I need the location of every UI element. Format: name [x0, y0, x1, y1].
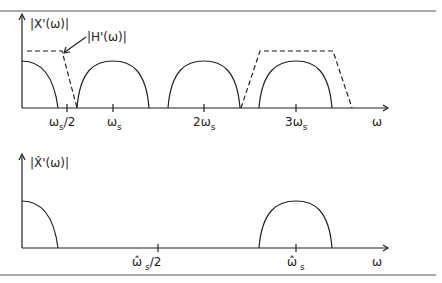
- reconstructed-lobe-1: [259, 201, 332, 248]
- top-tick-labels: ωs/2 ωs 2ωs 3ωs: [49, 115, 308, 132]
- top-x-label: ω: [372, 115, 382, 129]
- bottom-y-label: |X̂'(ω)|: [30, 156, 69, 170]
- svg-text:2ωs: 2ωs: [193, 115, 216, 132]
- bottom-x-label: ω: [372, 255, 382, 269]
- svg-text:ω̂s/2: ω̂s/2: [132, 255, 161, 272]
- bottom-tick-labels: ω̂s/2 ω̂s: [132, 255, 305, 272]
- spectrum-lobe-2: [168, 61, 240, 108]
- bandpass-filter-response: [241, 51, 352, 108]
- filter-pointer: [65, 37, 86, 52]
- top-plot: [19, 14, 388, 112]
- svg-text:ω̂s: ω̂s: [287, 255, 305, 272]
- svg-text:ωs: ωs: [107, 115, 122, 132]
- spectrum-diagram: |X'(ω)| |H'(ω)| ω ωs/2 ωs 2ωs 3ωs |X̂'(ω…: [0, 0, 442, 283]
- spectrum-lobe-1: [77, 61, 149, 108]
- bottom-plot: [19, 154, 388, 252]
- filter-label: |H'(ω)|: [87, 30, 127, 44]
- svg-text:ωs/2: ωs/2: [49, 115, 75, 132]
- spectrum-lobe-3: [259, 61, 332, 108]
- top-y-label: |X'(ω)|: [30, 17, 69, 31]
- spectrum-lobe-0: [22, 61, 58, 108]
- reconstructed-lobe-0: [22, 201, 58, 248]
- svg-text:3ωs: 3ωs: [285, 115, 308, 132]
- lowpass-filter-response: [27, 51, 77, 108]
